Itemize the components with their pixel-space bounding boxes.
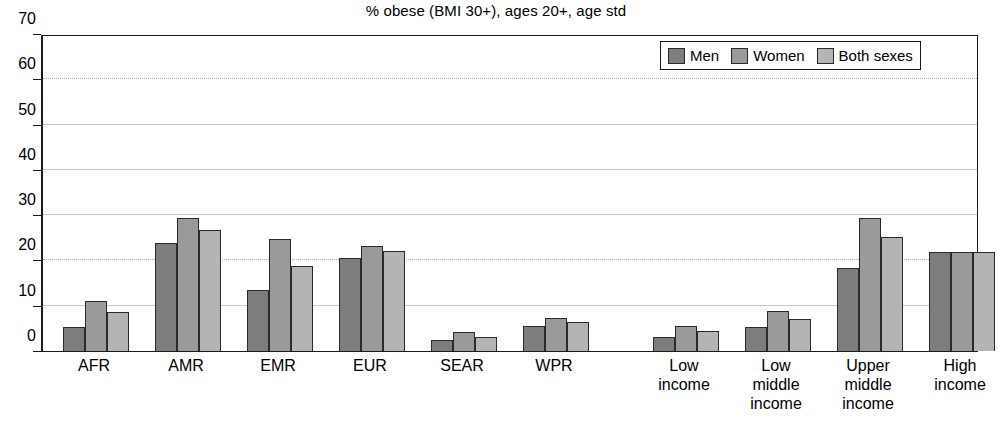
x-axis-tick-labels: AFRAMREMREURSEARWPRLow incomeLow middle …: [41, 356, 978, 434]
bar: [837, 268, 859, 351]
bar: [339, 258, 361, 351]
x-axis-tick-label: High income: [915, 356, 999, 394]
legend-swatch-icon: [731, 48, 748, 64]
bar: [523, 326, 545, 351]
x-axis-tick-label: EUR: [325, 356, 415, 375]
x-axis-tick-label: SEAR: [417, 356, 507, 375]
bar: [675, 326, 697, 351]
bar: [973, 252, 995, 351]
plot-area: [41, 35, 978, 352]
x-axis-tick-label: Low income: [639, 356, 729, 394]
bar: [745, 327, 767, 351]
bar: [859, 218, 881, 351]
y-axis-tick-mark: [33, 260, 41, 261]
bar: [475, 337, 497, 351]
bar: [951, 252, 973, 351]
bar: [177, 218, 199, 351]
bar: [361, 246, 383, 351]
legend-swatch-icon: [668, 48, 685, 64]
bar: [107, 312, 129, 351]
legend-swatch-icon: [817, 48, 834, 64]
bar: [291, 266, 313, 351]
y-axis-tick-label: 70: [2, 11, 36, 27]
y-axis-tick-mark: [33, 79, 41, 80]
bar: [567, 322, 589, 351]
y-axis-tick-marks: [0, 35, 42, 352]
y-axis-tick-mark: [33, 351, 41, 352]
bar: [85, 301, 107, 351]
bar: [789, 319, 811, 351]
bar: [63, 327, 85, 351]
y-axis-tick-mark: [33, 34, 41, 35]
bar: [383, 251, 405, 351]
chart-title: % obese (BMI 30+), ages 20+, age std: [0, 2, 992, 19]
y-axis-tick-mark: [33, 125, 41, 126]
x-axis-tick-label: EMR: [233, 356, 323, 375]
bar: [653, 337, 675, 351]
y-axis-tick-mark: [33, 306, 41, 307]
x-axis-tick-label: WPR: [509, 356, 599, 375]
legend-item[interactable]: Men: [668, 48, 719, 64]
bar: [767, 311, 789, 351]
legend-item[interactable]: Women: [731, 48, 804, 64]
bar: [269, 239, 291, 351]
chart-legend: MenWomenBoth sexes: [660, 41, 921, 70]
legend-label: Men: [690, 48, 719, 63]
x-axis-tick-label: Upper middle income: [823, 356, 913, 413]
legend-label: Both sexes: [839, 48, 913, 63]
legend-item[interactable]: Both sexes: [817, 48, 913, 64]
y-axis-tick-mark: [33, 170, 41, 171]
bar: [545, 318, 567, 351]
legend-label: Women: [753, 48, 804, 63]
x-axis-tick-label: Low middle income: [731, 356, 821, 413]
bar: [881, 237, 903, 351]
x-axis-tick-label: AMR: [141, 356, 231, 375]
bars-layer: [43, 36, 977, 351]
bar: [929, 252, 951, 351]
bar: [199, 230, 221, 351]
x-axis-tick-label: AFR: [49, 356, 139, 375]
bar: [453, 332, 475, 351]
bar: [431, 340, 453, 351]
y-axis-tick-mark: [33, 215, 41, 216]
bar: [247, 290, 269, 351]
bar: [697, 331, 719, 351]
bar: [155, 243, 177, 351]
